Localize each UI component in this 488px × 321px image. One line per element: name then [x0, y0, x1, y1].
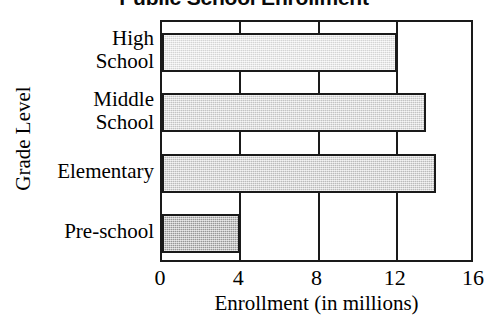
chart-title: Public School Enrollment — [0, 0, 488, 8]
y-tick-label-line: School — [0, 111, 154, 134]
y-tick-label-line: Pre-school — [0, 220, 154, 243]
y-tick-label-pre-school: Pre-school — [0, 220, 154, 243]
y-tick-label-line: Middle — [0, 88, 154, 111]
x-tick-label-0: 0 — [130, 266, 190, 290]
x-axis-title: Enrollment (in millions) — [160, 292, 473, 315]
y-tick-label-line: School — [0, 50, 154, 73]
x-tick-label-16: 16 — [443, 266, 488, 290]
y-tick-label-high-school: HighSchool — [0, 27, 154, 73]
y-tick-label-elementary: Elementary — [0, 160, 154, 183]
x-tick-label-4: 4 — [208, 266, 268, 290]
x-tick-label-8: 8 — [287, 266, 347, 290]
y-tick-label-line: Elementary — [0, 160, 154, 183]
y-tick-label-middle-school: MiddleSchool — [0, 88, 154, 134]
chart-figure: Public School Enrollment Grade Level Hig… — [0, 0, 488, 321]
x-tick-label-12: 12 — [365, 266, 425, 290]
y-axis-tick-labels: HighSchoolMiddleSchoolElementaryPre-scho… — [0, 20, 488, 262]
x-axis-tick-labels: 0481216 — [0, 266, 488, 294]
y-tick-label-line: High — [0, 27, 154, 50]
